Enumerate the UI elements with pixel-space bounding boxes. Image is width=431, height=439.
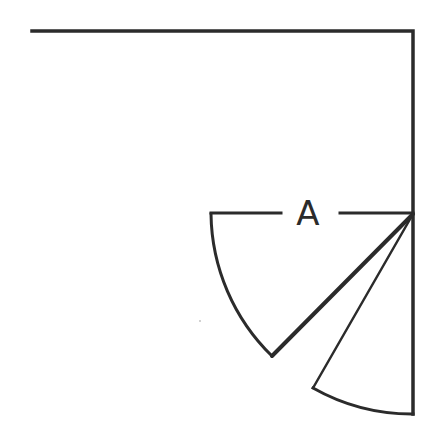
- wall-outline: [32, 31, 413, 414]
- speck-dot: [199, 320, 201, 322]
- walls: [32, 31, 413, 414]
- door-swing-2-arc: [313, 388, 413, 414]
- door-swing-1-arc: [211, 214, 272, 356]
- label-a: A: [296, 193, 319, 233]
- door-swing-diagram: A: [0, 0, 431, 439]
- door-swings: [211, 214, 413, 414]
